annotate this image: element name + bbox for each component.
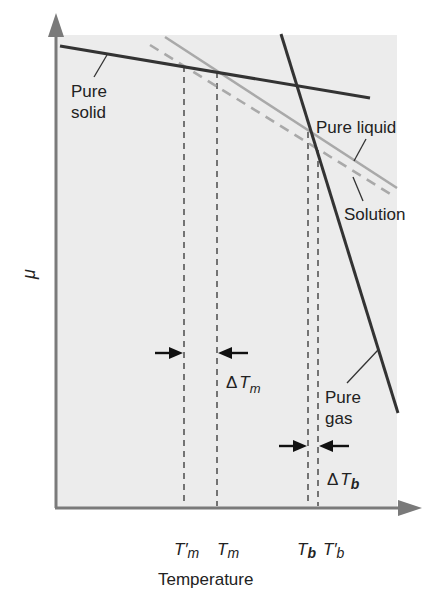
x-axis-title: Temperature xyxy=(158,570,253,589)
tick-label-t-prime-m: T′m xyxy=(174,540,200,561)
pure-solid-label-2: solid xyxy=(71,103,106,122)
y-axis-arrow-icon xyxy=(48,13,64,37)
tick-label-t-prime-b: T′b xyxy=(323,540,345,561)
pure-solid-label-1: Pure xyxy=(71,82,107,101)
x-axis-arrow-icon xyxy=(398,500,422,516)
y-axis-title: μ xyxy=(19,269,39,280)
plot-background xyxy=(57,35,397,508)
tick-label-t-m: Tm xyxy=(217,540,239,561)
tick-label-t-b: Tb xyxy=(297,540,316,561)
pure-gas-label-1: Pure xyxy=(325,388,361,407)
solution-label: Solution xyxy=(344,205,405,224)
pure-liquid-label: Pure liquid xyxy=(316,118,396,137)
chemical-potential-diagram: Pure solid Pure liquid Solution Pure gas… xyxy=(0,0,442,593)
pure-gas-label-2: gas xyxy=(325,409,352,428)
